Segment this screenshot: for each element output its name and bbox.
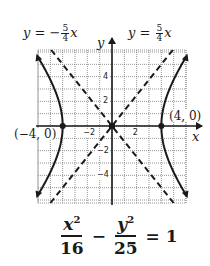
asymptote-pos-suffix: x [164,25,171,40]
y-term-den: 25 [114,237,138,257]
asymptote-neg-prefix: y = − [23,25,60,40]
x-term-num: x2 [61,215,82,237]
y-tick-label: −2 [96,147,110,155]
equals-one: = 1 [146,226,178,246]
x-exp: 2 [73,214,80,225]
frac-den: 4 [61,34,69,43]
asymptote-label-negative: y = −54x [23,24,77,43]
frac-den: 4 [156,34,164,43]
vertex-label-left: (−4, 0) [14,128,56,140]
y-term-num: y2 [115,215,136,237]
minus-sign: − [92,226,106,246]
asymptote-label-positive: y = 54x [128,24,172,43]
y-var: y [117,214,127,234]
y-exp: 2 [127,214,134,225]
asymptote-pos-prefix: y = [128,25,155,40]
fraction-5-4: 54 [156,24,164,43]
y-term-fraction: y2 25 [114,215,138,257]
x-axis-label: x [192,130,199,143]
y-tick-label: 2 [102,97,109,105]
y-tick-label: −4 [96,171,110,179]
vertex-label-right: (4, 0) [169,110,201,122]
fraction-5-4: 54 [61,24,69,43]
y-axis-label: y [97,36,104,49]
x-var: x [63,214,73,234]
y-tick-label: 4 [102,73,109,81]
x-tick-label: −2 [82,129,96,137]
x-tick-label: 2 [132,129,139,137]
x-term-fraction: x2 16 [60,215,84,257]
asymptote-neg-suffix: x [70,25,77,40]
hyperbola-equation: x2 16 − y2 25 = 1 [56,215,182,257]
x-term-den: 16 [60,237,84,257]
